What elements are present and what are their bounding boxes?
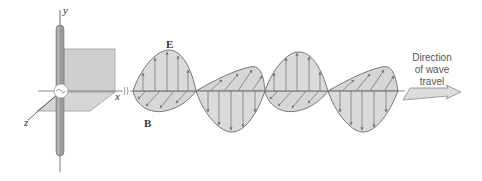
y-axis-label: y — [63, 4, 68, 16]
electric-field-label: E — [166, 38, 173, 50]
x-axis-label: x — [115, 90, 120, 102]
magnetic-field-label: B — [144, 117, 151, 129]
axis-break-icon — [124, 87, 128, 95]
xy-plane — [64, 49, 115, 92]
z-axis-label: z — [24, 116, 28, 128]
em-wave-diagram — [0, 0, 482, 181]
electric-field-wave — [133, 50, 398, 132]
direction-caption: Direction of wave travel — [402, 52, 462, 88]
ac-source-icon — [54, 84, 68, 98]
